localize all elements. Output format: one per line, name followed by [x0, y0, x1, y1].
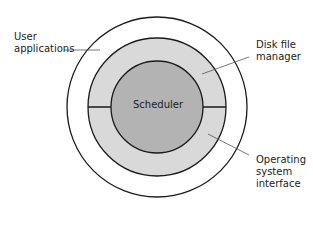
- label-line: Disk file: [256, 39, 301, 51]
- label-disk-file-manager: Disk file manager: [256, 39, 301, 63]
- label-line: system: [256, 166, 306, 178]
- label-os-interface: Operating system interface: [256, 154, 306, 190]
- label-line: manager: [256, 51, 301, 63]
- label-line: applications: [14, 43, 74, 55]
- center-label: Scheduler: [133, 99, 183, 111]
- label-user-applications: User applications: [14, 31, 74, 55]
- label-line: Operating: [256, 154, 306, 166]
- label-line: interface: [256, 178, 306, 190]
- label-line: User: [14, 31, 74, 43]
